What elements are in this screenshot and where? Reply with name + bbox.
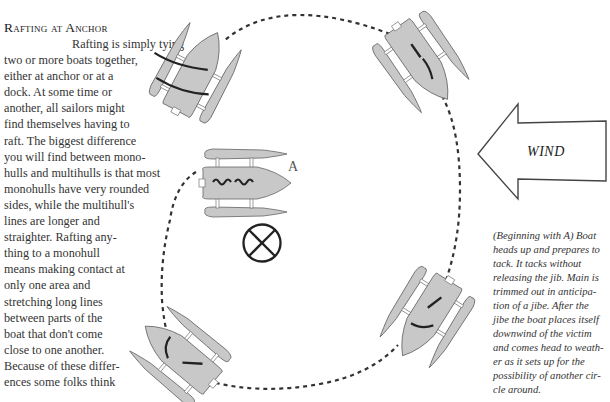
caption-line: releasing the jib. Main is (493, 271, 610, 285)
boat-a (199, 149, 291, 217)
caption-line: jibe the boat places itself (493, 313, 610, 327)
caption-line: and comes head to weath- (493, 341, 610, 355)
boat-lower-left (123, 300, 237, 402)
maneuver-path-right (443, 98, 460, 280)
caption-line: downwind of the victim (493, 327, 610, 341)
caption-line: tion of a jibe. After the (493, 299, 610, 313)
maneuver-path-bottom (208, 345, 398, 389)
boat-a-label: A (288, 159, 298, 175)
crossed-circle-icon (244, 225, 281, 262)
caption-line: cle around. (493, 383, 610, 397)
wind-label: WIND (527, 144, 565, 160)
caption-line: (Beginning with A) Boat (493, 229, 610, 243)
boat-lower-right (374, 260, 480, 374)
caption-line: trimmed out in anticipa- (493, 285, 610, 299)
caption-line: tack. It tacks without (493, 257, 610, 271)
caption-line: heads up and prepares to (493, 243, 610, 257)
maneuver-path-top (225, 15, 390, 40)
caption-line: possibility of another cir- (493, 369, 610, 383)
boat-upper-left (134, 11, 248, 130)
caption-line: er as it sets up for the (493, 355, 610, 369)
boat-upper-right (367, 4, 475, 118)
diagram-caption: (Beginning with A) Boatheads up and prep… (493, 229, 610, 397)
